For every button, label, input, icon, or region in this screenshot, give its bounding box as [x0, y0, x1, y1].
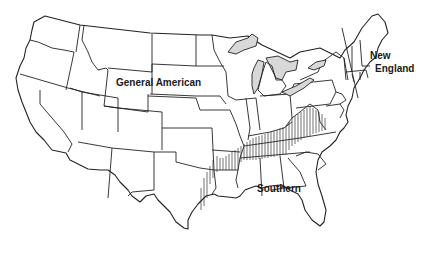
- label-general-american: General American: [116, 77, 201, 89]
- label-southern: Southern: [257, 183, 301, 195]
- us-dialect-map: [0, 0, 427, 260]
- lake-ontario: [308, 60, 326, 70]
- state-boundaries: [20, 25, 370, 198]
- great-lakes: [228, 34, 326, 96]
- lake-huron: [266, 56, 298, 80]
- label-new-england-line2: England: [375, 63, 414, 75]
- label-new-england-line1: New: [370, 50, 391, 62]
- us-outline: [16, 14, 388, 229]
- lake-erie: [282, 78, 314, 96]
